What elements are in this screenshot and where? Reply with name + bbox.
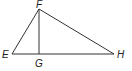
label-e: E [2,49,9,60]
label-f: F [36,0,43,10]
segment-ef [12,9,39,54]
triangle-diagram: F E G H [0,0,132,71]
label-h: H [117,49,125,60]
label-g: G [35,58,43,69]
segment-fh [39,9,114,54]
